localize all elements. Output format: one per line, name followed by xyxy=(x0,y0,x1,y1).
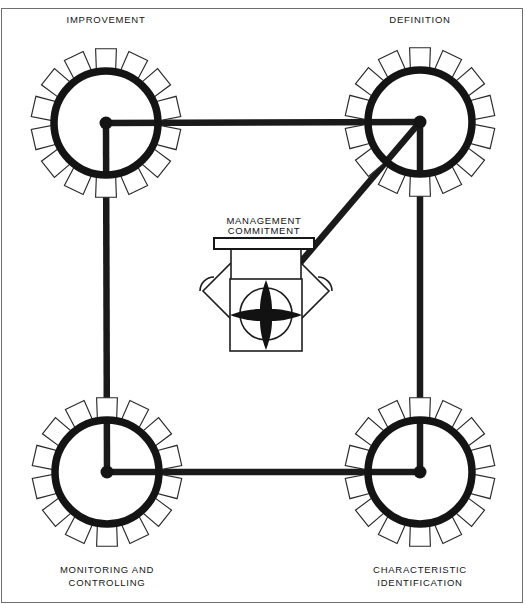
gear-label-definition: DEFINITION xyxy=(389,14,450,25)
gear-tooth xyxy=(96,49,117,70)
commitment-crossbar xyxy=(214,238,314,249)
gear-label-monitoring-and-controlling-line1: MONITORING AND xyxy=(60,564,154,575)
diagram-page: MANAGEMENT COMMITMENT IMPROVEMENT DEFINI… xyxy=(0,0,525,604)
gear-label-improvement: IMPROVEMENT xyxy=(67,14,146,25)
commitment-neck xyxy=(231,249,301,280)
gear-tooth xyxy=(96,176,117,197)
gear-label-characteristic-identification-line2: IDENTIFICATION xyxy=(377,577,462,588)
hub-characteristic-identification xyxy=(414,466,427,479)
gear-tooth xyxy=(410,398,431,419)
hub-improvement xyxy=(100,117,113,130)
gear-tooth xyxy=(97,398,118,419)
management-commitment-label-line2: COMMITMENT xyxy=(228,225,300,236)
gear-tooth xyxy=(410,175,431,196)
linkage-top-bar xyxy=(106,122,420,123)
management-commitment-assembly: MANAGEMENT COMMITMENT xyxy=(200,215,332,351)
gear-tooth xyxy=(97,525,118,546)
gear-tooth xyxy=(410,48,431,69)
hub-definition xyxy=(414,116,427,129)
gear-diagram: MANAGEMENT COMMITMENT IMPROVEMENT DEFINI… xyxy=(0,0,525,604)
gear-tooth xyxy=(410,525,431,546)
gear-label-monitoring-and-controlling-line2: CONTROLLING xyxy=(69,577,146,588)
hub-monitoring-and-controlling xyxy=(101,466,114,479)
gear-label-characteristic-identification-line1: CHARACTERISTIC xyxy=(373,564,467,575)
